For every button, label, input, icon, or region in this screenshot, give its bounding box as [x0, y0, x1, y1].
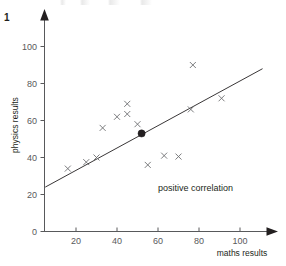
data-point-marker: [219, 95, 225, 101]
x-tick-label-100: 100: [232, 236, 247, 246]
line-of-best-fit: [45, 69, 262, 187]
x-tick-label-60: 60: [153, 236, 163, 246]
y-axis-title: physics results: [10, 97, 20, 153]
y-axis-arrow-icon: [40, 9, 49, 21]
data-point-marker: [161, 153, 167, 159]
data-point-marker: [135, 121, 141, 127]
x-tick-label-80: 80: [194, 236, 204, 246]
data-point-marker: [100, 125, 106, 131]
data-point-marker: [176, 154, 182, 160]
y-axis-ticks: [41, 47, 45, 232]
x-axis-title: maths results: [217, 248, 268, 258]
y-tick-label-0: 0: [32, 227, 37, 237]
plot-canvas: 0 20 40 60 80 100 20 40 60 80 100 maths …: [0, 0, 286, 266]
x-tick-label-20: 20: [71, 236, 81, 246]
y-tick-label-60: 60: [27, 116, 37, 126]
data-point-marker: [65, 166, 71, 172]
mean-point-marker: [138, 130, 145, 137]
y-tick-label-100: 100: [22, 42, 37, 52]
data-point-marker: [83, 159, 89, 165]
correlation-annotation: positive correlation: [158, 183, 233, 193]
data-point-marker: [124, 101, 130, 107]
data-point-marker: [114, 114, 120, 120]
y-tick-label-80: 80: [27, 79, 37, 89]
data-point-marker: [145, 162, 151, 168]
y-tick-label-40: 40: [27, 153, 37, 163]
scatter-plot-figure: 1 0 20 40 60 80 100: [0, 0, 286, 266]
x-tick-label-40: 40: [112, 236, 122, 246]
y-tick-label-20: 20: [27, 190, 37, 200]
data-point-marker: [124, 111, 130, 117]
data-points-layer: [65, 62, 225, 172]
x-axis-ticks: [76, 228, 240, 232]
data-point-marker: [190, 62, 196, 68]
x-axis-arrow-icon: [267, 227, 279, 236]
